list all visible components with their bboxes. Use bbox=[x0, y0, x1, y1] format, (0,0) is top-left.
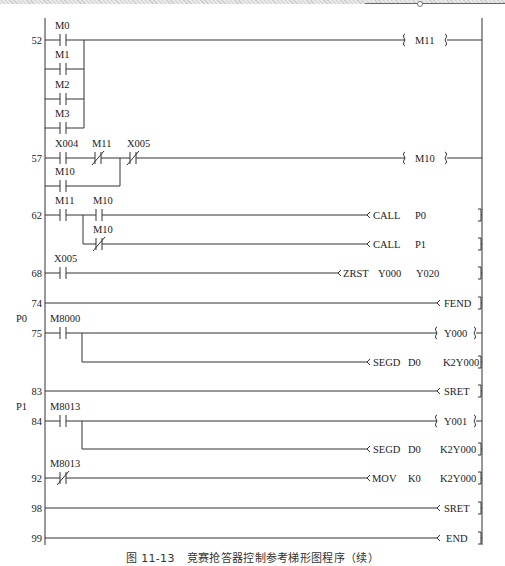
instruction-op: SRET bbox=[444, 503, 470, 514]
contact-label: M3 bbox=[55, 108, 70, 119]
step-number: 62 bbox=[32, 210, 43, 221]
rung-99 bbox=[45, 532, 482, 544]
instruction-op: MOV bbox=[372, 473, 397, 484]
contact-label: X005 bbox=[54, 253, 77, 264]
coil-label: M11 bbox=[415, 35, 434, 46]
instruction-op: END bbox=[446, 533, 468, 544]
instruction-arg: Y000 bbox=[378, 268, 401, 279]
contact-label: M10 bbox=[93, 195, 113, 206]
step-number: 52 bbox=[32, 35, 43, 46]
step-number: 75 bbox=[32, 328, 43, 339]
contact-label: M8013 bbox=[50, 401, 80, 412]
coil-label: Y000 bbox=[444, 328, 467, 339]
caption-number: 图 11-13 bbox=[126, 552, 175, 565]
instruction-op: CALL bbox=[373, 210, 400, 221]
step-number: 83 bbox=[32, 386, 43, 397]
contact-label: M11 bbox=[92, 138, 111, 149]
caption-title: 竞赛抢答器控制参考梯形图程序（续） bbox=[187, 552, 379, 565]
instruction-arg: P1 bbox=[415, 239, 426, 250]
contact-label: X004 bbox=[55, 138, 79, 149]
pointer-label-p0: P0 bbox=[16, 313, 27, 324]
step-number: 92 bbox=[32, 473, 43, 484]
instruction-arg: K2Y000 bbox=[440, 473, 476, 484]
contact-label: M11 bbox=[55, 195, 74, 206]
instruction-op: CALL bbox=[373, 239, 400, 250]
step-number: 57 bbox=[32, 153, 43, 164]
contact-label: M8013 bbox=[50, 458, 80, 469]
step-number: 99 bbox=[32, 533, 43, 544]
coil-label: M10 bbox=[415, 153, 435, 164]
instruction-arg: D0 bbox=[408, 357, 421, 368]
instruction-arg: D0 bbox=[408, 444, 421, 455]
contact-label: M8000 bbox=[50, 313, 80, 324]
instruction-op: ZRST bbox=[343, 268, 369, 279]
contact-label: M10 bbox=[93, 224, 113, 235]
contact-label: M2 bbox=[55, 79, 70, 90]
step-number: 98 bbox=[32, 503, 43, 514]
step-number: 68 bbox=[32, 268, 43, 279]
instruction-arg: K0 bbox=[408, 473, 421, 484]
step-number: 84 bbox=[32, 416, 43, 427]
pointer-label-p1: P1 bbox=[16, 401, 27, 412]
instruction-arg: K2Y000 bbox=[440, 444, 476, 455]
coil-label: Y001 bbox=[444, 416, 467, 427]
instruction-op: SEGD bbox=[373, 357, 401, 368]
rung-52 bbox=[45, 34, 482, 134]
contact-label: M0 bbox=[55, 20, 70, 31]
instruction-op: SEGD bbox=[373, 444, 401, 455]
step-number: 74 bbox=[32, 298, 43, 309]
instruction-op: SRET bbox=[444, 386, 470, 397]
instruction-op: FEND bbox=[444, 298, 472, 309]
contact-label: X005 bbox=[127, 138, 150, 149]
contact-label: M10 bbox=[55, 166, 75, 177]
rung-83 bbox=[45, 385, 482, 397]
instruction-arg: Y020 bbox=[416, 268, 439, 279]
contact-label: M1 bbox=[55, 49, 70, 60]
rung-74 bbox=[45, 297, 482, 309]
ladder-diagram: 52 57 62 68 74 75 83 84 92 98 99 P0 P1 M… bbox=[0, 0, 505, 566]
instruction-arg: K2Y000 bbox=[443, 357, 479, 368]
instruction-arg: P0 bbox=[415, 210, 426, 221]
rung-98 bbox=[45, 502, 482, 514]
figure-caption: 图 11-13竞赛抢答器控制参考梯形图程序（续） bbox=[0, 549, 505, 565]
